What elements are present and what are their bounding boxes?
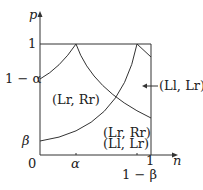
y-axis-arrow-icon [38,11,43,17]
curve-corner-segment [137,44,151,57]
x-tick-alpha: α [71,156,80,171]
y-axis-label: p [29,7,38,22]
y-tick-1: 1 [28,36,36,51]
y-tick-1-minus-alpha: 1 − α [5,71,41,86]
x-tick-1: 1 [146,153,154,168]
x-tick-0: 0 [28,156,36,171]
x-axis-label: n [173,153,181,168]
annotation-arrow-icon [142,84,147,89]
region-label-lower-right-2: (Ll, Lr) [103,136,149,151]
phase-diagram: p n 1 1 − α β 0 α 1 1 − β (Lr, Rr) (Lr, … [0,0,203,190]
region-label-upper-left: (Lr, Rr) [52,92,100,107]
curve-left-rising [40,44,76,79]
y-tick-beta: β [21,133,30,148]
region-label-right-arrow: (Ll, Lr) [159,78,203,93]
x-tick-1-minus-beta: 1 − β [122,167,157,182]
